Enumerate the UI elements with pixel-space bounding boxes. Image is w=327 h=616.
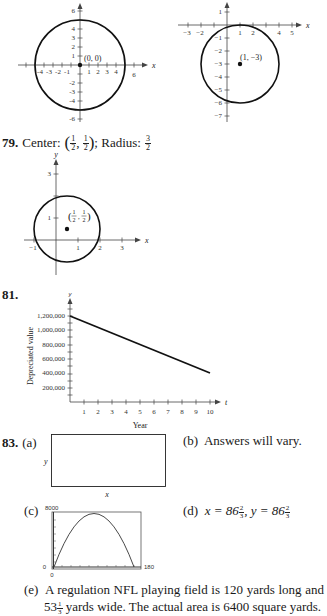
part-d-answer: (d) x = 8623, y = 8623 — [183, 503, 290, 520]
svg-text:0: 0 — [50, 572, 54, 578]
svg-text:8000: 8000 — [45, 505, 59, 511]
part-e-answer-line2: 5313 yards wide. The actual area is 6400… — [44, 599, 321, 616]
svg-text:180: 180 — [144, 564, 155, 570]
svg-text:0: 0 — [43, 564, 47, 570]
area-parabola — [54, 514, 134, 568]
part-e-answer-line1: (e) A regulation NFL playing field is 12… — [24, 582, 324, 598]
